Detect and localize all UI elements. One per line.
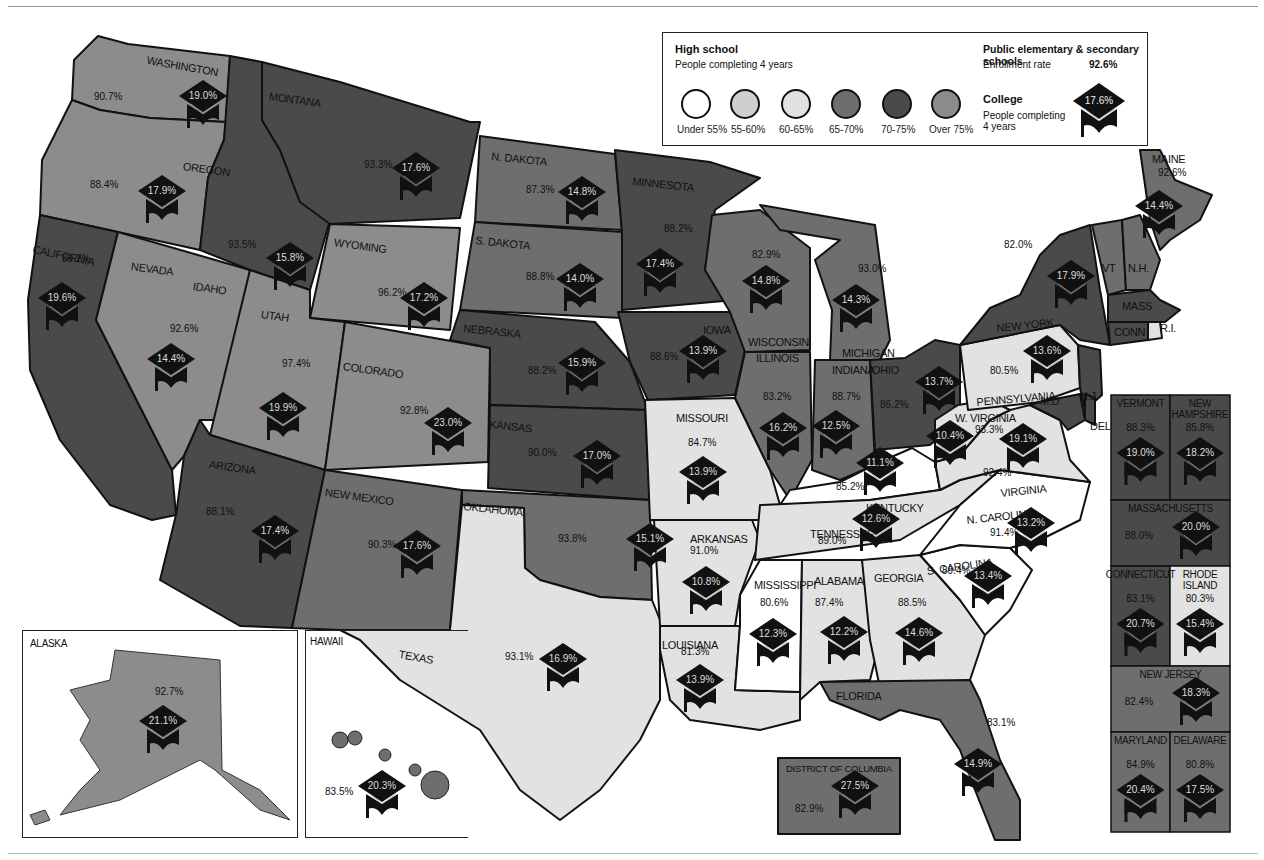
enrollment-rate: 80.6%	[760, 597, 788, 608]
enrollment-rate: 82.4%	[1125, 696, 1153, 707]
legend-college-sub-1: People completing	[983, 110, 1065, 121]
enrollment-rate: 93.0%	[858, 263, 886, 274]
enrollment-rate: 85.2%	[836, 481, 864, 492]
ne-panel-label: VERMONT	[1117, 398, 1165, 409]
state-label: ARKANSAS	[690, 533, 748, 545]
college-rate: 14.0%	[566, 273, 594, 284]
college-rate: 19.0%	[189, 90, 217, 101]
enrollment-rate: 88.5%	[898, 597, 926, 608]
state-label: N.H.	[1128, 262, 1149, 274]
state-ks[interactable]	[488, 405, 650, 500]
enrollment-rate: 81.3%	[681, 646, 709, 657]
enrollment-rate: 90.7%	[94, 91, 122, 102]
college-rate: 19.6%	[48, 292, 76, 303]
college-rate: 16.9%	[549, 653, 577, 664]
college-rate: 16.2%	[769, 422, 797, 433]
enrollment-rate: 87.4%	[815, 597, 843, 608]
hawaii-inset	[305, 630, 468, 838]
college-rate: 14.3%	[842, 294, 870, 305]
enrollment-rate: 88.2%	[664, 223, 692, 234]
state-label: R.I.	[1160, 322, 1176, 334]
ne-panel-label: NEW JERSEY	[1139, 669, 1202, 680]
legend-swatch-65-70	[831, 89, 861, 119]
enrollment-rate: 83.1%	[1126, 593, 1154, 604]
enrollment-rate: 97.4%	[282, 358, 310, 369]
enrollment-rate: 83.2%	[763, 391, 791, 402]
ne-panel-label: NEW	[1189, 398, 1212, 409]
college-rate: 15.4%	[1186, 618, 1214, 629]
state-label: ILLINOIS	[756, 352, 799, 364]
enrollment-rate: 80.8%	[1186, 759, 1214, 770]
enrollment-rate: 80.5%	[990, 365, 1018, 376]
college-rate: 12.5%	[822, 420, 850, 431]
legend-high-school-subtitle: People completing 4 years	[675, 59, 793, 70]
college-rate: 14.4%	[1145, 200, 1173, 211]
ne-panel-label: HAMPSHIRE	[1172, 409, 1229, 420]
ne-panel-label: MARYLAND	[1114, 735, 1167, 746]
college-rate: 17.4%	[646, 258, 674, 269]
enrollment-rate: 86.2%	[880, 399, 908, 410]
svg-text:17.6%: 17.6%	[1085, 95, 1113, 106]
enrollment-rate: 92.6%	[1158, 167, 1186, 178]
college-rate: 27.5%	[841, 780, 869, 791]
state-label: INDIANA	[832, 364, 875, 376]
enrollment-rate: 88.1%	[206, 506, 234, 517]
college-rate: 13.9%	[689, 345, 717, 356]
college-rate: 14.6%	[905, 627, 933, 638]
dc-label: DISTRICT OF COLUMBIA	[786, 763, 893, 774]
legend-label-55-60: 55-60%	[731, 124, 765, 135]
legend-enrollment-value: 92.6%	[1089, 59, 1117, 70]
ne-panel-label: ISLAND	[1183, 580, 1217, 591]
legend-swatch-70-75	[882, 89, 912, 119]
legend-label-60-65: 60-65%	[779, 124, 813, 135]
enrollment-rate: 83.1%	[987, 717, 1015, 728]
college-rate: 20.4%	[1126, 784, 1154, 795]
state-label: VT	[1102, 262, 1116, 274]
enrollment-rate: 84.7%	[688, 437, 716, 448]
state-label: MISSOURI	[676, 412, 728, 424]
legend-label-under-55: Under 55%	[677, 124, 727, 135]
college-rate: 19.1%	[1009, 433, 1037, 444]
college-rate: 18.2%	[1186, 447, 1214, 458]
legend-label-over-75: Over 75%	[929, 124, 973, 135]
state-label: M.D.	[1040, 395, 1062, 407]
college-rate: 13.4%	[974, 570, 1002, 581]
legend: High school People completing 4 years Un…	[662, 32, 1148, 146]
dc-enrollment: 82.9%	[795, 803, 823, 814]
ne-panel-label: CONNECTICUT	[1106, 569, 1176, 580]
enrollment-rate: 91.0%	[690, 545, 718, 556]
enrollment-rate: 92.8%	[400, 405, 428, 416]
college-rate: 11.1%	[866, 457, 894, 468]
college-rate: 12.6%	[862, 513, 890, 524]
state-co[interactable]	[325, 322, 490, 470]
enrollment-rate: 82.9%	[752, 249, 780, 260]
state-label: MAINE	[1152, 153, 1185, 165]
ne-panel-label: DELAWARE	[1174, 735, 1228, 746]
enrollment-rate: 88.8%	[526, 271, 554, 282]
college-rate: 20.0%	[1182, 521, 1210, 532]
enrollment-rate: 92.6%	[170, 323, 198, 334]
legend-college-sub-2: 4 years	[983, 121, 1016, 132]
college-rate: 14.4%	[157, 353, 185, 364]
legend-college-title: College	[983, 93, 1023, 105]
enrollment-rate: 88.4%	[90, 179, 118, 190]
college-rate: 13.9%	[686, 674, 714, 685]
college-rate: 17.0%	[583, 450, 611, 461]
enrollment-rate: 85.8%	[1186, 422, 1214, 433]
state-label: OHIO	[872, 364, 900, 376]
enrollment-rate: 90.0%	[528, 447, 556, 458]
enrollment-rate: 80.3%	[1186, 593, 1214, 604]
college-rate: 20.7%	[1126, 618, 1154, 629]
enrollment-rate: 91.4%	[990, 527, 1018, 538]
state-label: GEORGIA	[874, 572, 924, 584]
state-label: CONN	[1114, 326, 1146, 338]
enrollment-rate: 89.2%	[62, 253, 90, 264]
college-rate: 17.6%	[403, 540, 431, 551]
college-rate: 13.6%	[1033, 345, 1061, 356]
graduation-cap-icon: 17.6%	[1071, 81, 1127, 145]
enrollment-rate: 93.5%	[228, 239, 256, 250]
enrollment-rate: 82.0%	[1004, 239, 1032, 250]
legend-swatch-55-60	[730, 89, 760, 119]
college-rate: 18.3%	[1182, 687, 1210, 698]
college-rate: 14.9%	[964, 758, 992, 769]
